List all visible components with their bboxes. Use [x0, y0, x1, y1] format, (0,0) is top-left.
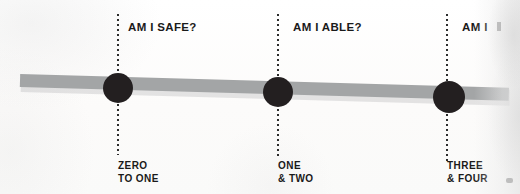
stage-label-line1: ZERO: [118, 160, 159, 173]
page-edge-fleck-top: [497, 22, 501, 31]
stage-label-line1: ONE: [278, 160, 314, 173]
stage-label-three-and-four: THREE & FOUR: [447, 160, 488, 185]
stage-label-line2: TO ONE: [118, 173, 159, 186]
question-label-three-and-four: AM I: [462, 22, 488, 34]
page-edge-fleck-bottom: [506, 178, 513, 183]
stage-label-line2: & FOUR: [447, 173, 488, 186]
marker-dot-one-and-two[interactable]: [263, 77, 293, 107]
question-label-one-and-two: AM I ABLE?: [293, 22, 362, 34]
marker-dot-zero-to-one[interactable]: [103, 73, 133, 103]
stage-label-zero-to-one: ZERO TO ONE: [118, 160, 159, 185]
question-label-zero-to-one: AM I SAFE?: [128, 22, 197, 34]
stage-label-line1: THREE: [447, 160, 488, 173]
marker-dot-three-and-four[interactable]: [433, 81, 465, 113]
stage-label-one-and-two: ONE & TWO: [278, 160, 314, 185]
diagram-canvas: AM I SAFE? ZERO TO ONE AM I ABLE? ONE & …: [0, 0, 520, 194]
stage-label-line2: & TWO: [278, 173, 314, 186]
